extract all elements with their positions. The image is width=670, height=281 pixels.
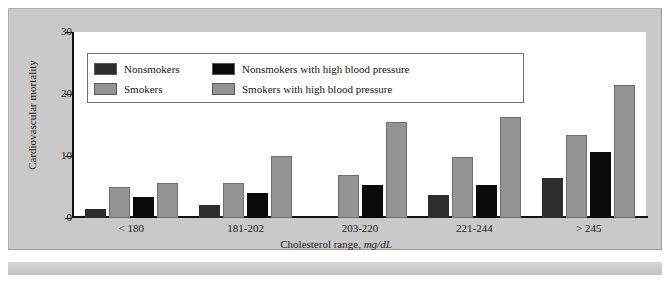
chart-legend: NonsmokersNonsmokers with high blood pre… — [87, 53, 524, 103]
figure-panel: Cardiovascular mortality 0102030 Nonsmok… — [8, 8, 662, 250]
bar — [157, 183, 178, 218]
bar — [271, 156, 292, 218]
legend-swatch — [212, 63, 235, 75]
bar — [362, 185, 383, 218]
legend-entry: Smokers — [94, 83, 212, 95]
y-axis-tick-label: 10 — [24, 149, 72, 161]
bar — [386, 122, 407, 218]
caption-strip — [8, 262, 662, 275]
bar — [428, 195, 449, 218]
legend-swatch — [94, 63, 117, 75]
x-axis-title: Cholesterol range, mg/dL — [9, 238, 663, 250]
legend-swatch — [94, 83, 117, 95]
bar — [338, 175, 359, 218]
y-axis-tick-label: 0 — [24, 211, 72, 223]
legend-label: Smokers — [124, 83, 163, 95]
y-axis-tick-label: 30 — [24, 25, 72, 37]
legend-label: Nonsmokers with high blood pressure — [242, 63, 409, 75]
bar-group — [542, 32, 635, 218]
legend-entry: Nonsmokers with high blood pressure — [212, 63, 512, 75]
y-axis-title: Cardiovascular mortality — [26, 20, 38, 210]
x-axis-tick-label: 221-244 — [417, 222, 531, 234]
bar — [247, 193, 268, 218]
bar — [614, 85, 635, 218]
legend-swatch — [212, 83, 235, 95]
bar — [566, 135, 587, 218]
bar — [223, 183, 244, 218]
bar — [85, 209, 106, 218]
legend-entry: Nonsmokers — [94, 63, 212, 75]
y-axis-tick-label: 20 — [24, 87, 72, 99]
x-axis-title-text: Cholesterol range, — [280, 238, 361, 250]
bar — [476, 185, 497, 218]
bar — [590, 152, 611, 218]
x-axis-tick-labels: < 180181-202203-220221-244> 245 — [74, 222, 646, 238]
bar — [199, 205, 220, 218]
bar — [109, 187, 130, 218]
x-axis-tick-label: 181-202 — [188, 222, 302, 234]
x-axis-title-units: mg/dL — [364, 238, 392, 250]
legend-entry: Smokers with high blood pressure — [212, 83, 512, 95]
bar — [500, 117, 521, 218]
bar — [452, 157, 473, 218]
x-axis-tick-label: 203-220 — [303, 222, 417, 234]
x-axis-tick-label: > 245 — [532, 222, 646, 234]
x-axis-tick-label: < 180 — [74, 222, 188, 234]
bar — [133, 197, 154, 218]
chart-figure: Cardiovascular mortality 0102030 Nonsmok… — [0, 0, 670, 281]
legend-label: Nonsmokers — [124, 63, 180, 75]
bar — [542, 178, 563, 218]
legend-label: Smokers with high blood pressure — [242, 83, 392, 95]
